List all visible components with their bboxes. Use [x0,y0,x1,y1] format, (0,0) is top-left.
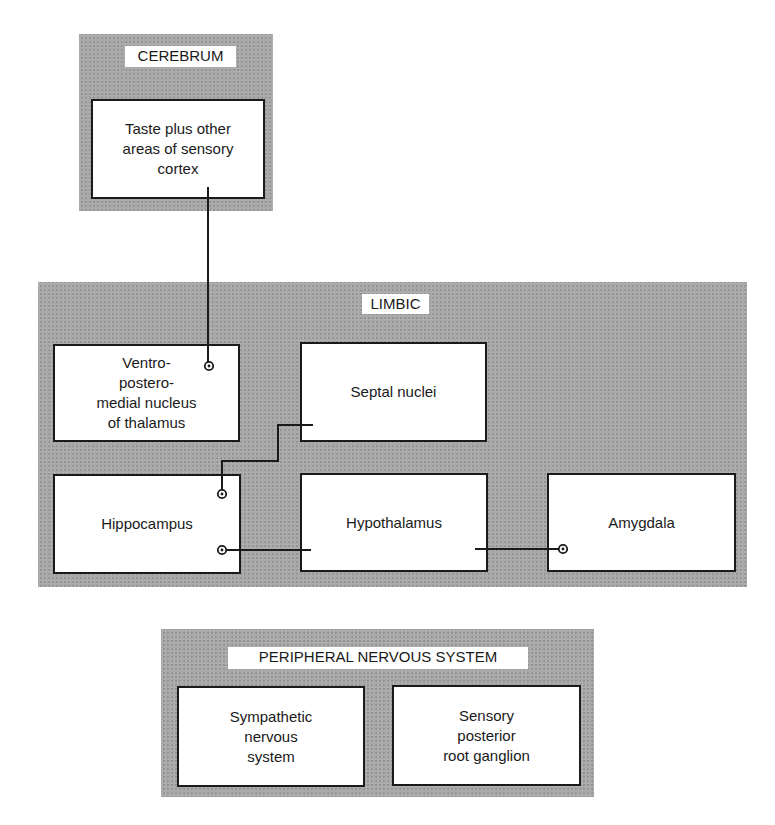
limbic-label: LIMBIC [362,294,429,314]
sympathetic-label: Sympathetic nervous system [230,707,313,767]
cerebrum-label: CEREBRUM [125,46,236,67]
hypothalamus-label: Hypothalamus [346,513,442,533]
hippocampus-box: Hippocampus [53,474,241,574]
vpm-thalamus-box: Ventro- postero- medial nucleus of thala… [53,344,240,442]
taste-cortex-box: Taste plus other areas of sensory cortex [91,99,265,199]
peripheral-label: PERIPHERAL NERVOUS SYSTEM [228,647,528,669]
sympathetic-box: Sympathetic nervous system [177,686,365,787]
sensory-ganglion-box: Sensory posterior root ganglion [392,685,581,786]
hypothalamus-box: Hypothalamus [300,473,488,572]
amygdala-box: Amygdala [547,473,736,572]
taste-cortex-label: Taste plus other areas of sensory cortex [123,119,234,179]
hippocampus-label: Hippocampus [101,514,193,534]
amygdala-label: Amygdala [608,513,675,533]
septal-nuclei-label: Septal nuclei [351,382,437,402]
sensory-ganglion-label: Sensory posterior root ganglion [443,706,530,766]
vpm-thalamus-label: Ventro- postero- medial nucleus of thala… [96,353,196,433]
septal-nuclei-box: Septal nuclei [300,342,487,442]
